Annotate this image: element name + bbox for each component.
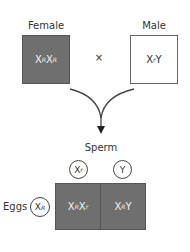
sperm-label: Sperm [80,142,122,153]
punnett-cell-male-offspring: XRY [100,183,146,230]
cell-1-chrom-1: X [68,201,75,212]
sperm-1-allele: r [80,166,82,173]
cell-2-chrom-2: Y [125,201,131,212]
egg-gamete-xR: XR [30,197,50,217]
eggs-label: Eggs [3,201,31,212]
punnett-cell-female-offspring: XRXr [55,183,101,230]
sperm-gamete-y: Y [113,160,132,179]
sperm-gamete-xr: Xr [69,160,88,179]
cell-1-chrom-2: X [79,201,86,212]
sperm-2-chrom: Y [120,165,126,175]
egg-allele: R [41,204,45,211]
cell-1-allele-2: r [86,203,88,210]
cell-2-chrom-1: X [114,201,121,212]
